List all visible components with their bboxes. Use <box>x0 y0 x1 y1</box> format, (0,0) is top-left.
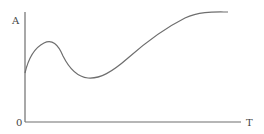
y-axis-label: A <box>11 15 20 26</box>
data-line <box>25 12 228 78</box>
origin-label: 0 <box>16 117 22 128</box>
chart: A T 0 <box>0 0 264 134</box>
x-axis-label: T <box>246 117 253 128</box>
